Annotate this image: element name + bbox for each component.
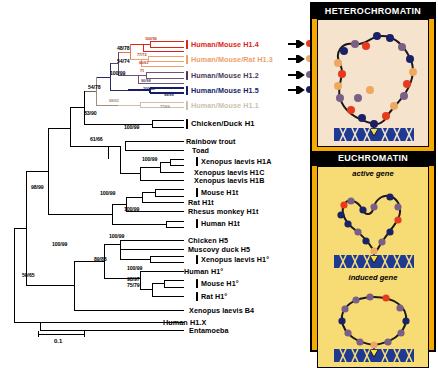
taxon-label-entamoeba: Entamoeba bbox=[189, 326, 229, 335]
support-value: 50/65 bbox=[22, 272, 34, 278]
taxon-label-chicken-h5: Chicken H5 bbox=[188, 236, 228, 245]
support-value-small: 90/98 bbox=[141, 78, 151, 83]
taxon-label-h11: Human/Mouse H1.1 bbox=[191, 101, 259, 110]
support-value: 98/99 bbox=[31, 184, 43, 190]
taxon-label-mouse-h1t: Mouse H1t bbox=[201, 188, 238, 197]
arrow-h12 bbox=[288, 71, 305, 79]
heterochromatin-fiber bbox=[318, 20, 430, 144]
support-value-small: 71 bbox=[140, 68, 144, 73]
support-value-small: 77/72 bbox=[137, 52, 147, 57]
taxon-label-h13: Human/Mouse/Rat H1.3 bbox=[191, 55, 273, 64]
support-value: 89/88 bbox=[94, 256, 106, 262]
active-gene-label: active gene bbox=[318, 167, 428, 178]
taxon-label-h14: Human/Mouse H1.4 bbox=[191, 40, 259, 49]
scale-bar-label: 0.1 bbox=[54, 338, 62, 344]
heterochromatin-stage bbox=[317, 19, 429, 147]
support-value-small: 100/99 bbox=[145, 36, 157, 41]
taxon-label-human-h1o: Human H1° bbox=[184, 267, 223, 276]
support-value: 100/99 bbox=[52, 241, 67, 247]
support-value-small: 77/69 bbox=[160, 104, 170, 109]
taxon-label-toad: Toad bbox=[192, 146, 209, 155]
chromatin-diagram-panel: HETEROCHROMATIN bbox=[310, 2, 436, 352]
phylogenetic-tree-panel: Human/Mouse H1.4 Human/Mouse/Rat H1.3 Hu… bbox=[0, 0, 308, 354]
taxon-label-xh1a: Xenopus laevis H1A bbox=[201, 157, 272, 166]
euchromatin-stage: active gene bbox=[317, 166, 429, 368]
support-value: 100/99 bbox=[124, 124, 139, 130]
support-value: 75/79 bbox=[127, 283, 139, 288]
taxon-label-muscovy-h5: Muscovy duck H5 bbox=[188, 245, 250, 254]
taxon-label-rat-h1t: Rat H1t bbox=[188, 198, 214, 207]
taxon-label-xenopus-h1o: Xenopus laevis H1° bbox=[201, 255, 269, 264]
taxon-label-chicken-duck: Chicken/Duck H1 bbox=[191, 119, 255, 128]
taxon-label-rat-h1o: Rat H1° bbox=[201, 292, 227, 301]
support-value: 100/99 bbox=[124, 206, 139, 212]
induced-gene-label: induced gene bbox=[318, 271, 428, 282]
support-value: 100/99 bbox=[100, 190, 115, 196]
support-value: 54/78 bbox=[88, 84, 100, 90]
support-value-small: 99/99 bbox=[164, 92, 174, 97]
taxon-label-mouse-h1o: Mouse H1° bbox=[201, 279, 239, 288]
arrow-h15 bbox=[288, 86, 305, 94]
support-value: 100/99 bbox=[127, 265, 142, 271]
euchromatin-title: EUCHROMATIN bbox=[312, 151, 434, 166]
taxon-label-h12: Human/Mouse H1.2 bbox=[191, 71, 259, 80]
support-value: 61/66 bbox=[90, 136, 102, 142]
support-value: 48/78 bbox=[117, 45, 129, 51]
taxon-label-rhesus-h1t: Rhesus monkey H1t bbox=[188, 207, 258, 216]
induced-gene-fiber bbox=[318, 283, 430, 363]
taxon-label-human-h1t: Human H1t bbox=[201, 219, 240, 228]
arrow-h13 bbox=[288, 55, 305, 63]
taxon-label-h15: Human/Mouse H1.5 bbox=[191, 86, 259, 95]
support-value-small: 60/61 bbox=[139, 60, 149, 65]
support-value-small: 100/99 bbox=[143, 86, 155, 91]
taxon-label-trout: Rainbow trout bbox=[186, 137, 236, 146]
taxon-label-xenopus-b4: Xenopus laevis B4 bbox=[189, 306, 254, 315]
heterochromatin-title: HETEROCHROMATIN bbox=[312, 4, 434, 19]
support-value: 100/99 bbox=[110, 70, 125, 76]
support-value: 54/74 bbox=[117, 58, 129, 64]
support-value-small: 68/65 bbox=[109, 98, 119, 103]
taxon-label-xh1b: Xenopus laevis H1B bbox=[194, 176, 265, 185]
active-gene-fiber bbox=[318, 179, 430, 271]
support-value: 100/99 bbox=[109, 233, 124, 239]
support-value: 83/90 bbox=[84, 110, 96, 116]
support-value: 100/99 bbox=[142, 156, 157, 162]
arrow-h14 bbox=[288, 40, 305, 48]
